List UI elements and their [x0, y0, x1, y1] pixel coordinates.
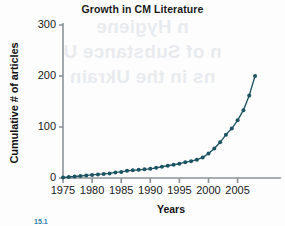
x-axis-label: Years: [63, 203, 279, 215]
data-point-marker: [90, 173, 94, 177]
data-point-marker: [195, 158, 199, 162]
data-point-marker: [172, 163, 176, 167]
data-point-marker: [207, 152, 211, 156]
data-point-marker: [108, 171, 112, 175]
figure-panel: n Hygiene n of Substance U ns in the Ukr…: [0, 0, 285, 226]
data-point-marker: [73, 174, 77, 178]
data-series-line: [63, 76, 255, 177]
data-point-marker: [230, 127, 234, 131]
data-point-marker: [212, 146, 216, 150]
data-point-marker: [67, 175, 71, 179]
data-point-marker: [218, 140, 222, 144]
data-point-marker: [96, 172, 100, 176]
data-point-marker: [189, 159, 193, 163]
data-point-marker: [131, 168, 135, 172]
y-tick-label: 300: [22, 18, 56, 30]
y-tick-label: 200: [22, 69, 56, 81]
data-point-marker: [61, 175, 65, 179]
data-point-marker: [224, 133, 228, 137]
data-point-marker: [137, 168, 141, 172]
data-point-marker: [113, 170, 117, 174]
data-point-marker: [166, 164, 170, 168]
data-point-marker: [142, 167, 146, 171]
data-point-marker: [84, 173, 88, 177]
y-axis-label: Cumulative # of articles: [8, 23, 20, 183]
data-point-marker: [78, 174, 82, 178]
data-point-marker: [247, 93, 251, 97]
data-point-marker: [253, 74, 257, 78]
data-point-marker: [125, 169, 129, 173]
x-tick-label: 2005: [216, 184, 260, 196]
y-tick-label: 100: [22, 120, 56, 132]
data-point-marker: [160, 165, 164, 169]
y-tick-label: 0: [22, 171, 56, 183]
data-point-marker: [201, 156, 205, 160]
data-point-marker: [148, 167, 152, 171]
data-point-marker: [241, 108, 245, 112]
data-point-marker: [177, 162, 181, 166]
data-point-marker: [119, 170, 123, 174]
data-point-marker: [154, 166, 158, 170]
data-point-marker: [183, 160, 187, 164]
data-point-marker: [236, 118, 240, 122]
data-point-marker: [102, 172, 106, 176]
